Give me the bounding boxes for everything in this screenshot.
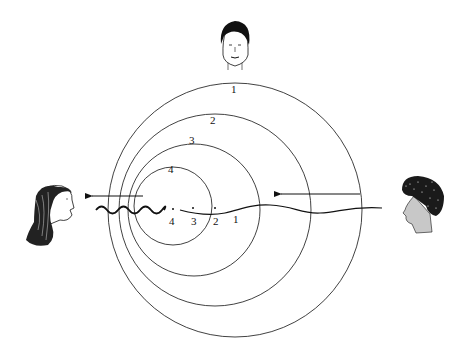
wavefront-3 xyxy=(128,144,260,276)
wavefront-label-3: 3 xyxy=(189,134,195,146)
face-curly-hair-icon xyxy=(402,176,444,233)
face-front-icon xyxy=(221,21,250,70)
face-long-hair-icon xyxy=(26,185,74,245)
source-label-1: 1 xyxy=(233,213,239,225)
source-label-2: 2 xyxy=(213,215,219,227)
wavefront-2 xyxy=(119,114,311,306)
source-label-4: 4 xyxy=(169,215,175,227)
doppler-diagram: 1 2 3 4 4 3 2 1 xyxy=(0,0,467,348)
compressed-wave xyxy=(96,207,165,214)
wavefront-label-4: 4 xyxy=(168,163,174,175)
source-positions xyxy=(172,207,216,210)
wavefront-label-1: 1 xyxy=(231,83,237,95)
stretched-wave xyxy=(180,205,382,215)
source-label-3: 3 xyxy=(191,215,197,227)
wavefront-label-2: 2 xyxy=(210,114,216,126)
